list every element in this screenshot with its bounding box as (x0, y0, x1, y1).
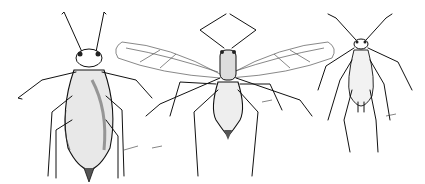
aphid-wingless-adult (18, 12, 152, 182)
aphid-nymph (318, 14, 412, 152)
aphid-winged-adult (116, 14, 335, 176)
aphid-illustration: Line illustrations of three aphids (0, 0, 425, 184)
